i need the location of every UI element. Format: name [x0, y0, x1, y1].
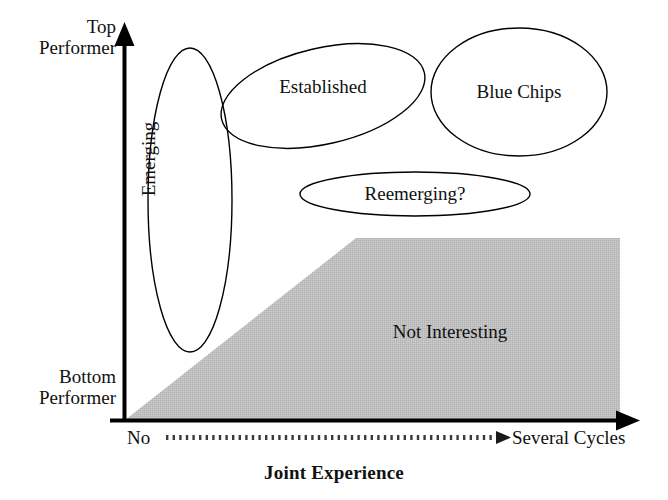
- y-axis-bottom-label-line1: Bottom: [59, 366, 116, 387]
- y-axis-bottom-label-line2: Performer: [39, 387, 116, 408]
- not-interesting-region: [125, 238, 620, 420]
- y-axis-top-label: TopPerformer: [39, 16, 116, 58]
- y-axis-arrowhead: [115, 22, 135, 46]
- not-interesting-label: Not Interesting: [393, 321, 508, 343]
- reemerging-label: Reemerging?: [365, 183, 466, 205]
- progression-arrowhead: [496, 431, 511, 444]
- y-axis-bottom-label: BottomPerformer: [39, 366, 116, 408]
- y-axis-top-label-line1: Top: [87, 16, 116, 37]
- y-axis-top-label-line2: Performer: [39, 37, 116, 58]
- emerging-ellipse: [148, 48, 232, 352]
- diagram-canvas: [0, 0, 668, 500]
- established-label: Established: [279, 76, 367, 98]
- x-axis-title: Joint Experience: [0, 462, 668, 483]
- x-axis-min-label: No: [127, 427, 150, 448]
- emerging-label-text: Emerging: [138, 122, 160, 197]
- joint-experience-diagram: TopPerformer BottomPerformer No Several …: [0, 0, 668, 500]
- x-axis-max-label: Several Cycles: [512, 427, 625, 448]
- blue-chips-label: Blue Chips: [477, 81, 562, 103]
